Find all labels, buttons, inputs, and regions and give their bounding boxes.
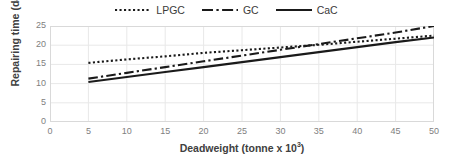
x-tick-label: 30 — [267, 127, 293, 136]
x-tick-label: 25 — [229, 127, 255, 136]
y-tick-label: 15 — [22, 59, 46, 68]
y-tick-label: 5 — [22, 98, 46, 107]
x-tick-label: 0 — [37, 127, 63, 136]
y-tick-label: 20 — [22, 40, 46, 49]
series-line-gc — [88, 26, 434, 79]
x-tick-label: 45 — [383, 127, 409, 136]
line-chart: LPGC GC CaC Repairing time (day) 0510152… — [0, 0, 453, 163]
legend-item-lpgc: LPGC — [115, 5, 185, 16]
x-axis-title-base: Deadweight (tonne x 10 — [180, 142, 297, 154]
x-tick-label: 10 — [114, 127, 140, 136]
plot-svg — [50, 26, 434, 122]
legend-label-cac: CaC — [317, 5, 338, 16]
solid-line-key — [276, 5, 312, 15]
x-tick-label: 40 — [344, 127, 370, 136]
legend-item-gc: GC — [202, 5, 259, 16]
x-tick-label: 15 — [152, 127, 178, 136]
x-tick-label: 35 — [306, 127, 332, 136]
series-line-cac — [88, 38, 434, 83]
dash-dot-line-key — [202, 5, 238, 15]
x-axis-title-tail: ) — [301, 142, 305, 154]
legend-label-lpgc: LPGC — [156, 5, 185, 16]
dotted-line-key — [115, 5, 151, 15]
x-tick-label: 20 — [191, 127, 217, 136]
plot-area — [50, 26, 434, 122]
legend-item-cac: CaC — [276, 5, 338, 16]
y-tick-label: 10 — [22, 79, 46, 88]
x-tick-label: 50 — [421, 127, 447, 136]
y-tick-label: 0 — [22, 117, 46, 126]
y-axis-title: Repairing time (day) — [9, 0, 23, 91]
legend-label-gc: GC — [243, 5, 259, 16]
chart-legend: LPGC GC CaC — [0, 2, 453, 18]
x-tick-label: 5 — [75, 127, 101, 136]
x-axis-title: Deadweight (tonne x 103) — [50, 141, 434, 154]
y-tick-label: 25 — [22, 21, 46, 30]
